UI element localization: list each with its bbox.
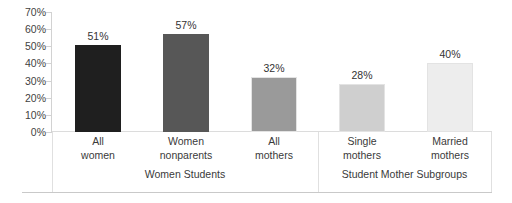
category-label-line1: Married	[404, 135, 496, 149]
category-label-line1: Women	[140, 135, 232, 149]
category-label-married-mothers: Married mothers	[404, 135, 496, 162]
y-tick-label: 70%	[0, 7, 46, 18]
bar-married-mothers[interactable]	[427, 63, 473, 132]
bar-all-women[interactable]	[75, 45, 121, 132]
category-label-line2: women	[52, 149, 144, 163]
category-label-line1: All	[52, 135, 144, 149]
category-label-line2: mothers	[228, 149, 320, 163]
y-tick-label: 30%	[0, 76, 46, 87]
bar-value-label: 57%	[150, 19, 222, 31]
group-labels: Women Students Student Mother Subgroups	[52, 168, 492, 184]
category-label-all-women: All women	[52, 135, 144, 162]
bar-value-label: 28%	[326, 69, 398, 81]
group-label-women-students: Women Students	[104, 168, 266, 181]
category-label-line2: mothers	[316, 149, 408, 163]
category-label-line2: nonparents	[140, 149, 232, 163]
bar-chart: 70% 60% 50% 40% 30% 20% 10% 0% 51% 57% 3…	[0, 0, 512, 203]
bar-women-nonparents[interactable]	[163, 34, 209, 132]
y-tick-label: 60%	[0, 24, 46, 35]
category-label-line1: Single	[316, 135, 408, 149]
x-axis-category-labels: All women Women nonparents All mothers S…	[52, 135, 492, 165]
bar-single-mothers[interactable]	[339, 84, 385, 132]
y-tick-label: 0%	[0, 127, 46, 138]
bar-all-mothers[interactable]	[251, 77, 297, 132]
y-axis-tick-labels: 70% 60% 50% 40% 30% 20% 10% 0%	[0, 7, 46, 135]
category-label-women-nonparents: Women nonparents	[140, 135, 232, 162]
category-label-line1: All	[228, 135, 320, 149]
y-tick-label: 20%	[0, 93, 46, 104]
y-tick-label: 40%	[0, 58, 46, 69]
bar-value-label: 32%	[238, 62, 310, 74]
group-label-student-mother-subgroups: Student Mother Subgroups	[318, 168, 491, 181]
bar-value-label: 40%	[414, 48, 486, 60]
plot-area: 51% 57% 32% 28% 40%	[52, 12, 492, 132]
category-label-all-mothers: All mothers	[228, 135, 320, 162]
y-tick-label: 10%	[0, 110, 46, 121]
category-label-line2: mothers	[404, 149, 496, 163]
bar-value-label: 51%	[62, 30, 134, 42]
category-label-single-mothers: Single mothers	[316, 135, 408, 162]
bottom-divider	[22, 192, 492, 193]
y-tick-label: 50%	[0, 41, 46, 52]
